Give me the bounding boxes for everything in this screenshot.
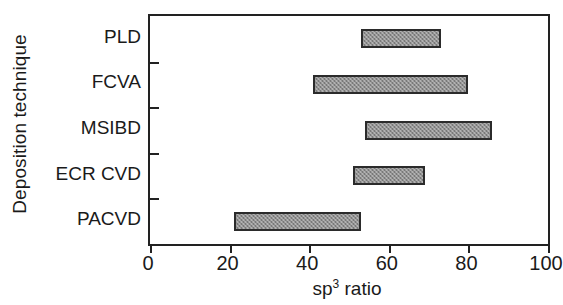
- range-bar: [365, 121, 492, 140]
- y-axis-title: Deposition technique: [9, 34, 31, 213]
- y-axis-tick-label: FCVA: [92, 59, 141, 105]
- x-axis-tick-label: 40: [296, 252, 318, 275]
- y-axis-title-container: Deposition technique: [0, 0, 40, 248]
- range-bar: [361, 29, 441, 48]
- y-axis-tick-label: MSIBD: [81, 105, 141, 151]
- y-axis-tick-mark: [150, 107, 159, 109]
- y-axis-tick-mark: [150, 198, 159, 200]
- range-bar: [234, 212, 361, 231]
- y-axis-tick-label: PLD: [104, 14, 141, 60]
- x-axis-title-base: sp: [312, 278, 332, 299]
- x-axis-tick-label: 80: [455, 252, 477, 275]
- x-axis-title-tail: ratio: [339, 278, 381, 299]
- x-axis-tick-labels: 020406080100: [148, 252, 548, 278]
- range-bar: [353, 166, 425, 185]
- range-bar: [313, 75, 468, 94]
- y-axis-tick-mark: [150, 153, 159, 155]
- y-axis-tick-mark: [150, 62, 159, 64]
- y-axis-tick-labels: PLDFCVAMSIBDECR CVDPACVD: [40, 14, 145, 242]
- y-axis-tick-label: PACVD: [77, 196, 141, 242]
- y-axis-tick-label: ECR CVD: [55, 151, 141, 197]
- x-axis-tick-label: 0: [142, 252, 153, 275]
- x-axis-tick-label: 60: [376, 252, 398, 275]
- x-axis-tick-label: 20: [216, 252, 238, 275]
- x-axis-tick-label: 100: [529, 252, 562, 275]
- plot-area: [148, 14, 550, 246]
- x-axis-title: sp3 ratio: [148, 278, 546, 300]
